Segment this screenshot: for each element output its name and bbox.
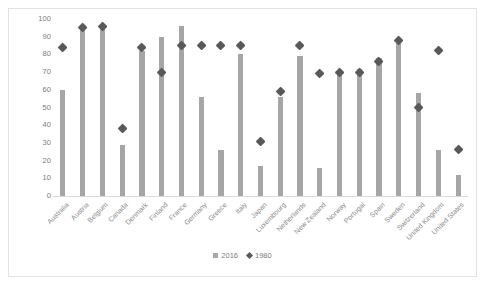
- y-axis-tick-label: 50: [42, 104, 51, 112]
- chart-legend: 20161980: [9, 252, 476, 260]
- y-axis-tick-label: 10: [42, 175, 51, 183]
- bar-2016: [218, 150, 223, 196]
- y-axis: 0102030405060708090100: [29, 19, 53, 197]
- bar-2016: [120, 145, 125, 196]
- y-axis-tick-label: 40: [42, 121, 51, 129]
- diamond-marker-icon: [246, 252, 253, 259]
- bar-2016: [199, 97, 204, 196]
- marker-1980: [295, 40, 305, 50]
- bar-2016: [179, 26, 184, 196]
- y-axis-tick-label: 30: [42, 139, 51, 147]
- square-marker-icon: [213, 253, 218, 258]
- legend-label: 2016: [221, 252, 238, 260]
- bar-2016: [60, 90, 65, 196]
- bar-2016: [357, 69, 362, 196]
- bar-2016: [317, 168, 322, 196]
- x-axis-baseline: [53, 196, 468, 197]
- y-axis-tick-label: 100: [38, 15, 51, 23]
- marker-1980: [433, 46, 443, 56]
- chart-frame: 0102030405060708090100 AustraliaAustriaB…: [8, 8, 477, 277]
- legend-label: 1980: [255, 252, 272, 260]
- bar-2016: [376, 58, 381, 196]
- marker-1980: [216, 40, 226, 50]
- marker-1980: [196, 40, 206, 50]
- y-axis-tick-label: 20: [42, 157, 51, 165]
- bar-2016: [80, 28, 85, 196]
- marker-1980: [58, 42, 68, 52]
- bar-2016: [258, 166, 263, 196]
- bar-2016: [100, 26, 105, 196]
- y-axis-tick-label: 80: [42, 51, 51, 59]
- marker-1980: [236, 40, 246, 50]
- bar-2016: [396, 38, 401, 196]
- marker-1980: [275, 86, 285, 96]
- bar-2016: [278, 97, 283, 196]
- bar-2016: [436, 150, 441, 196]
- bar-2016: [297, 56, 302, 196]
- bar-2016: [337, 72, 342, 196]
- marker-1980: [255, 136, 265, 146]
- marker-1980: [453, 145, 463, 155]
- bar-2016: [238, 54, 243, 196]
- legend-item[interactable]: 1980: [247, 252, 272, 260]
- marker-1980: [117, 124, 127, 134]
- marker-1980: [315, 69, 325, 79]
- bar-2016: [456, 175, 461, 196]
- y-axis-tick-label: 70: [42, 68, 51, 76]
- y-axis-tick-label: 90: [42, 33, 51, 41]
- y-axis-tick-label: 0: [47, 192, 51, 200]
- bar-2016: [139, 51, 144, 196]
- plot-inner: [53, 19, 468, 197]
- y-axis-tick-label: 60: [42, 86, 51, 94]
- legend-item[interactable]: 2016: [213, 252, 238, 260]
- plot-area: 0102030405060708090100: [29, 19, 468, 197]
- bar-2016: [159, 37, 164, 196]
